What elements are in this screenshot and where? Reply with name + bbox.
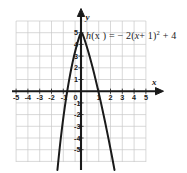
x-tick-label: -4 (25, 93, 31, 102)
equation-arg: (x ) (91, 30, 106, 41)
equation-equals: = − 2( (109, 30, 135, 41)
equation-plus-one: + 1) (139, 30, 156, 41)
x-tick-label: -3 (36, 93, 42, 102)
y-axis-label: y (85, 12, 91, 22)
y-tick-label: 5 (74, 28, 78, 37)
y-tick-label: -2 (74, 110, 80, 119)
x-axis-arrowhead (156, 88, 164, 95)
x-axis-label: x (151, 77, 157, 87)
y-tick-label: -5 (74, 145, 80, 154)
equation-tail: + 4 (163, 30, 177, 41)
x-tick-label: 4 (132, 93, 136, 102)
x-tick-label: 5 (144, 93, 148, 102)
function-equation-label: h(x ) = − 2(x+ 1)2 + 4 (86, 30, 177, 41)
x-tick-label: -5 (13, 93, 19, 102)
y-tick-label: 2 (74, 63, 78, 72)
graph-figure: -5 -4 -3 -2 -1 0 1 2 3 4 5 5 4 3 2 1 -1 … (0, 0, 187, 173)
x-tick-label: 2 (109, 93, 113, 102)
x-tick-label: 3 (120, 93, 124, 102)
y-tick-label: -4 (74, 134, 80, 143)
x-tick-label: -2 (48, 93, 54, 102)
coordinate-plane-plot: -5 -4 -3 -2 -1 0 1 2 3 4 5 5 4 3 2 1 -1 … (0, 0, 187, 173)
y-tick-label: 1 (74, 75, 78, 84)
y-tick-label: -1 (74, 99, 80, 108)
y-axis-arrowhead (77, 9, 84, 17)
y-tick-label: -3 (74, 122, 80, 131)
equation-exponent: 2 (157, 29, 160, 36)
